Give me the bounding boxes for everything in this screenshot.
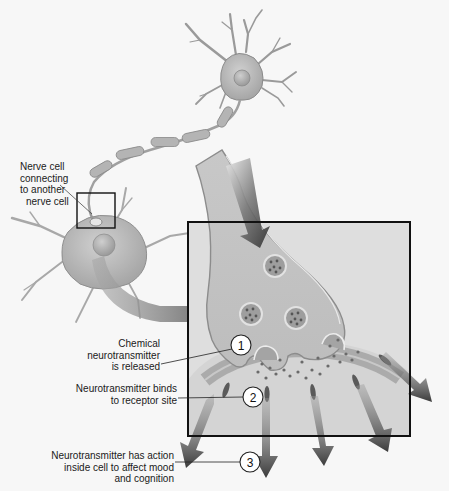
- step3-label-line-1: Neurotransmitter has action: [51, 450, 174, 462]
- step1-label-line-1: Chemical: [87, 338, 160, 350]
- callout-3: 3: [240, 452, 260, 472]
- step1-label: Chemical neurotransmitter is released: [87, 338, 160, 373]
- connection-label-line-4: nerve cell: [20, 196, 69, 208]
- step2-label-line-1: Neurotransmitter binds: [76, 383, 177, 395]
- svg-text:1: 1: [238, 339, 245, 353]
- upper-neuron-nucleus: [234, 70, 250, 86]
- step2-label: Neurotransmitter binds to receptor site: [76, 383, 177, 406]
- connection-label: Nerve cell connecting to another nerve c…: [20, 161, 69, 207]
- connection-label-line-1: Nerve cell: [20, 161, 69, 173]
- lower-neuron-nucleus: [93, 234, 115, 256]
- callout-1: 1: [231, 335, 251, 355]
- step3-label-line-3: and cognition: [51, 473, 174, 485]
- step1-label-line-3: is released: [87, 361, 160, 373]
- step2-label-line-2: to receptor site: [76, 395, 177, 407]
- step3-label: Neurotransmitter has action inside cell …: [51, 450, 174, 485]
- svg-text:2: 2: [250, 391, 257, 405]
- neuron-diagram: 1 2 3: [0, 0, 449, 491]
- svg-text:3: 3: [247, 456, 254, 470]
- connection-label-line-3: to another: [20, 184, 69, 196]
- step1-label-line-2: neurotransmitter: [87, 350, 160, 362]
- callout-2: 2: [243, 387, 263, 407]
- connection-label-line-2: connecting: [20, 173, 69, 185]
- step3-label-line-2: inside cell to affect mood: [51, 462, 174, 474]
